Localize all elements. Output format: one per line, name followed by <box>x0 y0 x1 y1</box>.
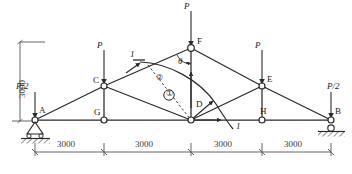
load-label-F: P <box>184 2 190 11</box>
dimension-label-span-2: 3000 <box>135 140 153 149</box>
node-label-D: D <box>196 100 203 109</box>
dimension-label-span-1: 3000 <box>57 140 75 149</box>
node-label-C: C <box>93 76 99 85</box>
dimension-label-height: 3000 <box>18 80 27 98</box>
joint-E <box>259 83 265 89</box>
load-label-B: P/2 <box>327 82 340 91</box>
angle-theta-label: θ <box>178 57 182 66</box>
joint-G <box>101 117 107 123</box>
applied-loads <box>35 11 331 118</box>
pin-roller-left-2 <box>39 134 43 138</box>
dimension-label-span-3: 3000 <box>214 140 232 149</box>
node-label-E: E <box>267 75 273 84</box>
support-pin-left <box>21 122 50 144</box>
pin-triangle <box>27 122 43 134</box>
ground-hatch-right <box>318 132 345 137</box>
internal-force-arrows <box>126 63 221 120</box>
section-cut-label-top: 1 <box>130 50 135 59</box>
support-roller-right <box>318 125 345 137</box>
joint-B <box>328 117 334 123</box>
pin-roller-left-1 <box>27 134 31 138</box>
joint-H <box>259 117 265 123</box>
node-label-G: G <box>94 108 101 117</box>
dimension-label-span-4: 3000 <box>284 140 302 149</box>
member-C-F <box>104 48 191 86</box>
truss-joints <box>32 45 334 123</box>
node-label-A: A <box>39 106 46 115</box>
truss-figure: A G D H B C E F P/2 P P P P/2 1 1 θ ① ② … <box>0 0 352 174</box>
member-E-B <box>262 86 331 120</box>
load-label-E: P <box>255 41 261 50</box>
joint-D <box>188 117 194 123</box>
force-circled-1-label: ① <box>166 90 173 98</box>
ground-hatch-left <box>21 139 50 144</box>
member-F-E <box>191 48 262 86</box>
joint-F <box>188 45 195 52</box>
load-label-C: P <box>97 41 103 50</box>
node-label-H: H <box>260 107 267 116</box>
node-label-B: B <box>335 107 341 116</box>
force-axial-2-label: ② <box>156 74 163 82</box>
section-cut-label-bottom: 1 <box>236 122 241 131</box>
roller-right <box>328 125 334 131</box>
joint-C <box>101 83 107 89</box>
node-label-F: F <box>197 37 202 46</box>
